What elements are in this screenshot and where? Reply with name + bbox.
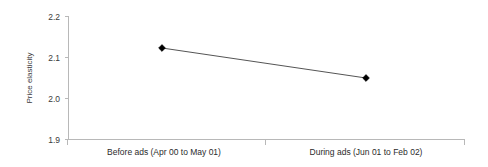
y-tick-label-1-9: 1.9 <box>48 135 60 145</box>
y-tick-label-2-1: 2.1 <box>48 53 60 63</box>
data-point-during-ads <box>363 75 370 82</box>
series-line-price-elasticity <box>162 48 366 78</box>
x-category-label-during-ads: During ads (Jun 01 to Feb 02) <box>310 147 423 157</box>
x-category-label-before-ads: Before ads (Apr 00 to May 01) <box>107 147 221 157</box>
y-axis-title: Price elasticity <box>25 52 34 103</box>
price-elasticity-chart: 2.2 2.1 2.0 1.9 Price elasticity Before … <box>0 0 488 167</box>
chart-canvas: 2.2 2.1 2.0 1.9 Price elasticity Before … <box>0 0 488 167</box>
y-tick-label-2-2: 2.2 <box>48 12 60 22</box>
y-tick-label-2-0: 2.0 <box>48 94 60 104</box>
data-point-before-ads <box>159 45 166 52</box>
